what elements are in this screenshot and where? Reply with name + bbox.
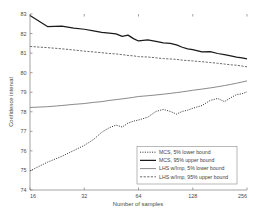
legend-label: LHS w/Imp, 5% lower bound [159,165,225,171]
y-tick-label: 74 [21,187,27,193]
x-tick-label: 32 [81,193,87,199]
y-axis-title: Confidence interval [8,77,14,127]
figure-background [0,0,263,218]
legend-label: MCS, 5% lower bound [159,149,211,155]
x-tick-label: 16 [30,193,36,199]
y-tick-label: 82 [21,31,27,37]
x-tick-label: 128 [188,193,197,199]
chart-figure: 74757677787980818283 163264128256 Number… [0,0,263,218]
x-axis-title: Number of samples [113,201,163,207]
confidence-interval-line-chart: 74757677787980818283 163264128256 Number… [0,0,263,218]
y-tick-label: 81 [21,50,27,56]
y-tick-label: 78 [21,109,27,115]
chart-legend: MCS, 5% lower boundMCS, 95% upper boundL… [137,147,237,185]
y-tick-label: 77 [21,128,27,134]
y-tick-label: 75 [21,167,27,173]
y-tick-label: 80 [21,70,27,76]
y-tick-label: 83 [21,11,27,17]
y-tick-label: 76 [21,148,27,154]
legend-label: LHS w/Imp, 95% upper bound [159,174,228,180]
x-tick-label: 256 [238,193,247,199]
x-tick-label: 64 [136,193,142,199]
y-tick-label: 79 [21,89,27,95]
legend-label: MCS, 95% upper bound [159,157,214,163]
